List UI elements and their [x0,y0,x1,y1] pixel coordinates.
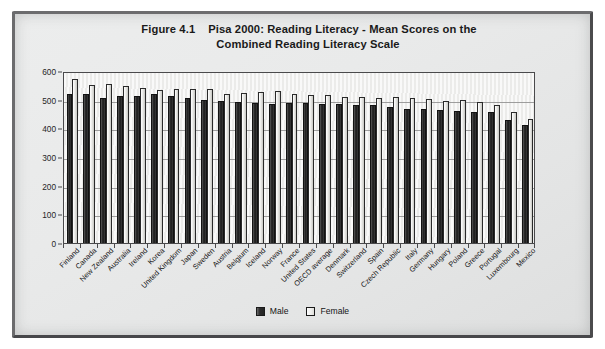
y-tick-label: 300 [42,153,56,163]
y-tick-mark [58,215,62,216]
bar [494,105,500,243]
bar [393,97,399,243]
bar-group [115,73,132,243]
bar [190,89,196,243]
bar [241,93,247,244]
bar [443,101,449,243]
bar-group [435,73,452,243]
bar [157,90,163,243]
bar-group [502,73,519,243]
bars-layer [64,73,534,243]
bar-group [216,73,233,243]
figure-title: Figure 4.1Pisa 2000: Reading Literacy - … [58,22,558,51]
bar-group [81,73,98,243]
bar [376,98,382,243]
bar [410,98,416,243]
bar [342,97,348,243]
y-tick-mark [58,100,62,101]
bar [258,92,264,243]
figure-root: Figure 4.1Pisa 2000: Reading Literacy - … [0,0,605,349]
y-tick-label: 100 [42,210,56,220]
y-tick-mark [58,158,62,159]
bar-group [131,73,148,243]
bar-group [64,73,81,243]
y-axis: 0100200300400500600 [22,72,62,244]
bar [106,84,112,243]
figure-title-line-2: Combined Reading Literacy Scale [58,37,558,52]
figure-number: Figure 4.1 [141,23,195,35]
chart-legend: MaleFemale [0,306,605,316]
legend-item: Female [306,306,349,316]
bar [72,79,78,243]
figure-title-line-1: Pisa 2000: Reading Literacy - Mean Score… [208,23,476,35]
legend-label: Female [320,306,349,316]
bar [140,88,146,243]
bar [292,94,298,243]
bar-group [418,73,435,243]
bar-group [334,73,351,243]
bar-group [401,73,418,243]
bar-group [384,73,401,243]
bar-group [485,73,502,243]
bar-group [452,73,469,243]
legend-label: Male [270,306,289,316]
y-tick-mark [58,72,62,73]
bar-group [148,73,165,243]
y-tick-label: 400 [42,124,56,134]
bar [359,97,365,243]
bar-group [300,73,317,243]
bar [89,85,95,243]
bar-group [98,73,115,243]
bar [325,95,331,243]
plot-wrap [63,72,535,244]
bar-group [317,73,334,243]
bar-group [519,73,535,243]
y-tick-mark [58,129,62,130]
bar [174,89,180,243]
bar-group [182,73,199,243]
bar-group [469,73,486,243]
bar [224,94,230,243]
y-tick-label: 500 [42,96,56,106]
y-tick-label: 600 [42,67,56,77]
bar-group [283,73,300,243]
plot-area [63,72,535,244]
bar-group [367,73,384,243]
bar-group [199,73,216,243]
bar [477,102,483,243]
legend-swatch-female [306,307,315,316]
bar-group [351,73,368,243]
bar [426,99,432,243]
bar [123,86,129,243]
bar [528,119,534,243]
bar-group [249,73,266,243]
y-tick-label: 0 [51,239,56,249]
legend-item: Male [256,306,289,316]
bar [207,89,213,243]
y-tick-mark [58,186,62,187]
bar [275,91,281,243]
legend-swatch-male [256,307,265,316]
y-tick-label: 200 [42,182,56,192]
bar [308,95,314,243]
bar-group [165,73,182,243]
bar [460,100,466,243]
bar-group [233,73,250,243]
bar-group [266,73,283,243]
y-tick-mark [58,244,62,245]
bar [511,112,517,243]
